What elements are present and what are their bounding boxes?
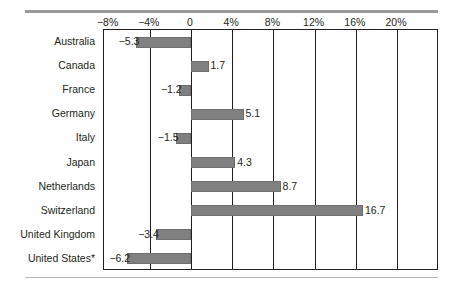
category-label: Australia: [0, 29, 99, 53]
category-axis-labels: AustraliaCanadaFranceGermanyItalyJapanNe…: [0, 29, 99, 270]
chart-figure: −8%−4%04%8%12%16%20% AustraliaCanadaFran…: [0, 0, 463, 292]
bar: [191, 181, 281, 192]
x-axis-tick-labels: −8%−4%04%8%12%16%20%: [0, 16, 463, 29]
bar-row: [104, 102, 437, 126]
bar-row: [104, 223, 437, 247]
bar: [156, 229, 191, 240]
bar: [179, 85, 191, 96]
top-rule: [25, 10, 438, 13]
x-tick-label: 8%: [265, 16, 280, 29]
x-tick-label: 16%: [344, 16, 365, 29]
category-label: Netherlands: [0, 174, 99, 198]
category-label: United Kingdom: [0, 222, 99, 246]
x-tick-label: −4%: [138, 16, 159, 29]
x-tick-label: 12%: [303, 16, 324, 29]
bar-row: [104, 151, 437, 175]
category-label: Germany: [0, 101, 99, 125]
bar: [191, 109, 244, 120]
bottom-rule: [25, 277, 438, 278]
bar: [136, 37, 191, 48]
x-tick-label: 4%: [224, 16, 239, 29]
bar-row: [104, 78, 437, 102]
bar-row: [104, 54, 437, 78]
bar: [191, 61, 209, 72]
bar-row: [104, 175, 437, 199]
bar: [176, 133, 191, 144]
bar: [191, 157, 235, 168]
category-label: United States*: [0, 246, 99, 270]
x-tick-label: −8%: [97, 16, 118, 29]
x-tick-label: 0: [187, 16, 193, 29]
x-tick-label: 20%: [385, 16, 406, 29]
bar-row: [104, 247, 437, 271]
category-label: Italy: [0, 125, 99, 149]
category-label: Japan: [0, 150, 99, 174]
plot-area: [103, 29, 438, 270]
bar-row: [104, 126, 437, 150]
category-label: Switzerland: [0, 198, 99, 222]
category-label: Canada: [0, 53, 99, 77]
bar: [127, 253, 191, 264]
bar: [191, 205, 363, 216]
category-label: France: [0, 77, 99, 101]
bar-row: [104, 199, 437, 223]
bar-row: [104, 30, 437, 54]
